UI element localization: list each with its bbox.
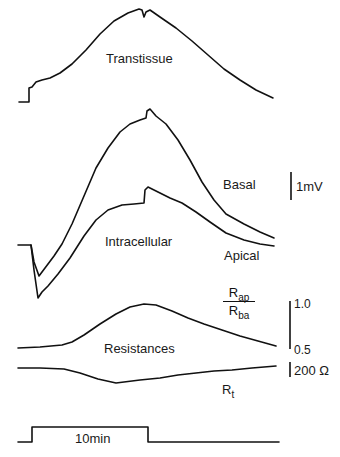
rt-subscript: t (231, 389, 234, 400)
mv-scale-label: 1mV (296, 180, 323, 193)
r-ba-subscript: ba (238, 310, 249, 321)
ohm-scale-label: 200 Ω (294, 364, 329, 377)
rt-label: Rt (222, 383, 234, 396)
apical-label: Apical (224, 249, 259, 262)
resistances-label: Resistances (104, 342, 175, 355)
figure-canvas (0, 0, 340, 457)
basal-label: Basal (223, 178, 256, 191)
rt-trace (18, 366, 276, 383)
intracellular-label: Intracellular (105, 235, 172, 248)
ratio-numerator: Rap (222, 286, 256, 301)
ratio-label: Rap Rba (222, 286, 256, 317)
stimulus-pulse-trace (18, 427, 279, 442)
rt-main: R (222, 382, 231, 397)
duration-label: 10min (75, 432, 110, 445)
ratio-bottom-tick: 0.5 (294, 344, 311, 356)
r-ba-main: R (229, 303, 238, 318)
r-ap-subscript: ap (238, 292, 249, 303)
transtissue-label: Transtissue (106, 52, 173, 65)
r-ap-main: R (229, 285, 238, 300)
ratio-top-tick: 1.0 (294, 298, 311, 310)
ratio-denominator: Rba (222, 302, 256, 317)
